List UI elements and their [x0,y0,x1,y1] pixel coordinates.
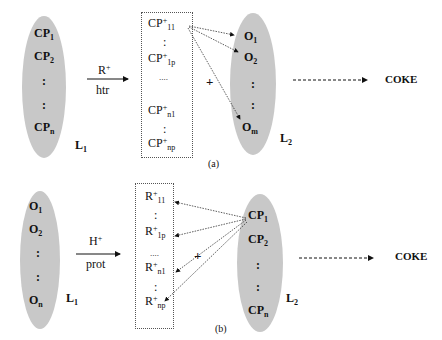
fan-arrows-a [188,26,240,119]
arrows-layer [0,0,442,340]
fan-arrows-b [165,202,247,301]
